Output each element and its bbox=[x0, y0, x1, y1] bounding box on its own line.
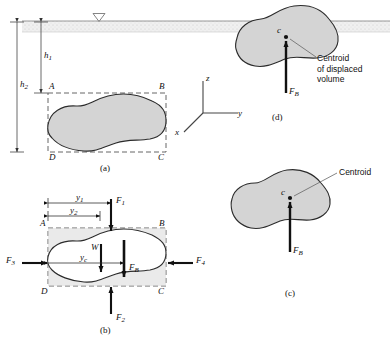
centroid-dot-c bbox=[288, 196, 292, 200]
label-force-FB-d: FB bbox=[289, 87, 299, 98]
panel-b bbox=[22, 198, 193, 314]
label-corner-A-a: A bbox=[49, 82, 55, 91]
centroid-annotation-c: Centroid bbox=[339, 167, 371, 178]
label-yc: yc bbox=[80, 253, 87, 264]
panel-label-c: (c) bbox=[285, 288, 295, 298]
submerged-body-shape-c bbox=[231, 170, 330, 229]
label-corner-D-b: D bbox=[41, 287, 48, 296]
label-y1: y1 bbox=[76, 193, 84, 204]
submerged-body-shape-a bbox=[48, 94, 166, 151]
label-h2: h2 bbox=[20, 80, 28, 91]
centroid-marker-c: c bbox=[281, 188, 285, 197]
label-force-W: W bbox=[91, 243, 99, 252]
label-corner-A-b: A bbox=[40, 219, 46, 228]
label-force-FB-b: FB bbox=[129, 263, 139, 274]
centroid-dot-d bbox=[284, 35, 288, 39]
label-y2: y2 bbox=[70, 206, 78, 217]
coordinate-axes bbox=[184, 81, 238, 132]
label-force-FB-c: FB bbox=[293, 246, 303, 257]
panel-c bbox=[231, 170, 337, 252]
panel-label-a: (a) bbox=[100, 163, 110, 173]
label-corner-C-a: C bbox=[158, 153, 164, 162]
label-force-F4: F4 bbox=[196, 256, 205, 267]
panel-label-d: (d) bbox=[272, 112, 283, 122]
centroid-annotation-d: Centroid of displaced volume bbox=[317, 53, 362, 85]
centroid-marker-d: c bbox=[277, 26, 281, 35]
label-corner-B-b: B bbox=[159, 219, 165, 228]
label-h1: h1 bbox=[44, 51, 52, 62]
label-force-F3: F3 bbox=[6, 256, 15, 267]
axis-x-line bbox=[184, 113, 203, 132]
free-surface-triangle-icon bbox=[93, 14, 105, 22]
label-force-F2: F2 bbox=[116, 313, 125, 324]
label-corner-C-b: C bbox=[158, 287, 164, 296]
label-corner-D-a: D bbox=[49, 153, 56, 162]
buoyancy-figure bbox=[0, 0, 390, 338]
axis-label-x: x bbox=[175, 128, 179, 137]
label-corner-B-a: B bbox=[159, 82, 165, 91]
axis-label-z: z bbox=[206, 74, 210, 83]
panel-label-b: (b) bbox=[100, 325, 111, 335]
label-force-F1: F1 bbox=[116, 196, 125, 207]
axis-label-y: y bbox=[238, 109, 242, 118]
